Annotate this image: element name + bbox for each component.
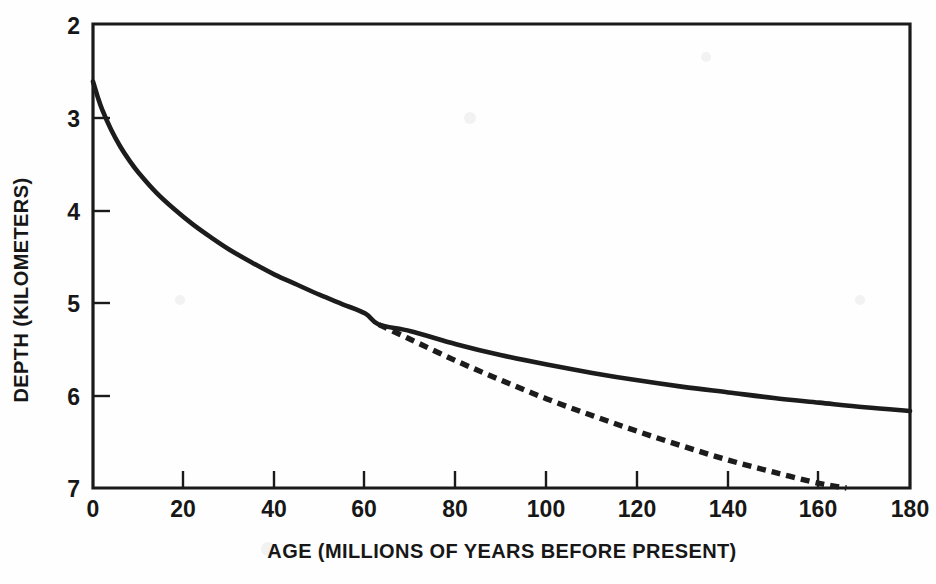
y-axis-title: DEPTH (KILOMETERS) <box>10 178 32 403</box>
figure-page: 2 3 4 5 6 7 0 20 40 60 80 100 120 140 16… <box>0 0 936 584</box>
x-axis-tick-labels: 0 20 40 60 80 100 120 140 160 180 <box>87 496 930 522</box>
x-tick-label: 80 <box>442 496 468 522</box>
x-tick-label: 140 <box>709 496 747 522</box>
x-tick-label: 60 <box>351 496 377 522</box>
x-tick-label: 40 <box>261 496 287 522</box>
plot-frame <box>93 24 910 488</box>
depth-vs-age-chart: 2 3 4 5 6 7 0 20 40 60 80 100 120 140 16… <box>0 0 936 584</box>
y-tick-label: 6 <box>67 384 80 410</box>
half-space-cooling-curve <box>379 325 847 488</box>
x-tick-label: 20 <box>170 496 196 522</box>
x-tick-label: 120 <box>618 496 656 522</box>
y-axis-ticks <box>93 118 110 396</box>
scan-specks <box>175 52 865 558</box>
y-tick-label: 7 <box>67 476 80 502</box>
y-tick-label: 2 <box>67 13 80 39</box>
x-axis-title: AGE (MILLIONS OF YEARS BEFORE PRESENT) <box>267 540 736 562</box>
y-tick-label: 5 <box>67 291 80 317</box>
x-tick-label: 100 <box>527 496 565 522</box>
x-tick-label: 160 <box>799 496 837 522</box>
y-tick-label: 3 <box>67 106 80 132</box>
plate-model-curve <box>93 82 910 411</box>
y-tick-label: 4 <box>67 199 80 225</box>
x-axis-ticks <box>183 471 818 488</box>
y-axis-tick-labels: 2 3 4 5 6 7 <box>67 13 80 502</box>
x-tick-label: 180 <box>891 496 929 522</box>
x-tick-label: 0 <box>87 496 100 522</box>
